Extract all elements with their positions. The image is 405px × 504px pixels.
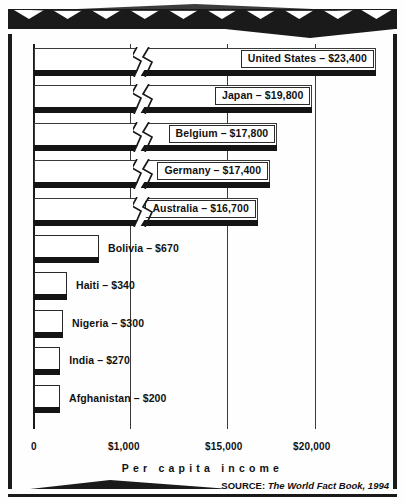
bar xyxy=(34,347,60,375)
bar: Germany – $17,400 xyxy=(34,160,270,188)
x-tick-label: $1,000 xyxy=(108,441,140,452)
bar-foot xyxy=(34,332,63,338)
bar-foot xyxy=(34,294,67,300)
plot-area: United States – $23,400Japan – $19,800Be… xyxy=(33,44,383,429)
bottom-accent xyxy=(30,480,230,489)
band-notch xyxy=(130,10,160,19)
band-notch xyxy=(14,10,44,19)
bar-label: United States – $23,400 xyxy=(241,50,374,68)
band-upper-accent xyxy=(30,4,360,11)
chart-page: United States – $23,400Japan – $19,800Be… xyxy=(0,0,405,504)
band-notch xyxy=(207,10,237,19)
bar-label: Bolivia – $670 xyxy=(108,242,179,254)
band-notch xyxy=(323,10,353,19)
decorative-top-band xyxy=(8,9,397,29)
band-notch xyxy=(53,10,83,19)
frame-bottom-rule xyxy=(8,494,397,497)
band-lower-accent xyxy=(225,29,395,38)
bar-label: Belgium – $17,800 xyxy=(169,125,276,143)
band-notch xyxy=(168,10,198,19)
bar xyxy=(34,385,60,413)
x-tick-label: $15,000 xyxy=(205,441,243,452)
source-text: The World Fact Book, 1994 xyxy=(268,480,389,491)
bar-foot xyxy=(34,369,60,375)
bar xyxy=(34,235,99,263)
bar-label: Australia – $16,700 xyxy=(145,200,255,218)
bar xyxy=(34,272,67,300)
bar: Australia – $16,700 xyxy=(34,198,258,226)
bar-foot xyxy=(34,257,99,263)
bar-foot xyxy=(34,182,270,188)
source-note: SOURCE: The World Fact Book, 1994 xyxy=(221,480,389,491)
bar-foot xyxy=(34,70,376,76)
bar: Japan – $19,800 xyxy=(34,85,312,113)
band-notch xyxy=(246,10,276,19)
frame-right-border xyxy=(393,34,397,489)
bar xyxy=(34,310,63,338)
source-prefix: SOURCE: xyxy=(221,480,265,491)
bar-label: Germany – $17,400 xyxy=(157,162,268,180)
bar: Belgium – $17,800 xyxy=(34,123,277,151)
bar-foot xyxy=(34,145,277,151)
bar-foot xyxy=(34,220,258,226)
x-axis-title: Per capita income xyxy=(0,462,405,474)
bar-label: Afghanistan – $200 xyxy=(69,392,167,404)
gridline xyxy=(315,44,316,429)
band-notch xyxy=(91,10,121,19)
band-notch xyxy=(284,10,314,19)
bar-foot xyxy=(34,107,312,113)
bar: United States – $23,400 xyxy=(34,48,376,76)
bar-label: India – $270 xyxy=(69,354,130,366)
bar-foot xyxy=(34,407,60,413)
band-notch xyxy=(361,10,391,19)
bar-label: Haiti – $340 xyxy=(76,279,135,291)
x-tick-label: $20,000 xyxy=(293,441,331,452)
x-tick-label: 0 xyxy=(31,441,37,452)
bar-label: Nigeria – $300 xyxy=(72,317,144,329)
bar-label: Japan – $19,800 xyxy=(215,87,310,105)
frame-left-border xyxy=(8,34,12,489)
